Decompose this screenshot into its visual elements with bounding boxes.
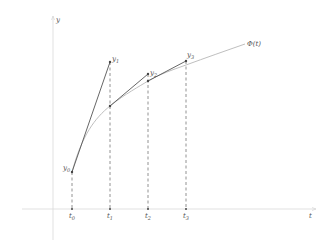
tick-dot-t3 xyxy=(185,208,187,210)
point-phi-t2 xyxy=(147,80,149,82)
axes: y t xyxy=(22,16,316,240)
tick-dot-t2 xyxy=(147,208,149,210)
euler-method-diagram: y t Φ(t) y0 y1 y2 y3 t0 t1 t2 t3 xyxy=(0,0,329,247)
point-y0 xyxy=(71,171,73,173)
euler-segments xyxy=(72,61,186,172)
y-axis-label: y xyxy=(55,16,61,24)
euler-step-2 xyxy=(110,74,148,106)
tick-label-t2: t2 xyxy=(145,212,151,221)
exact-solution-curve xyxy=(72,44,245,172)
point-phi-t1 xyxy=(109,105,111,107)
points xyxy=(71,60,187,210)
point-y2 xyxy=(147,73,149,75)
label-y1: y1 xyxy=(111,55,119,64)
tick-dot-t0 xyxy=(71,208,73,210)
curve-label: Φ(t) xyxy=(247,40,261,48)
dashed-guides xyxy=(72,61,186,209)
point-y1 xyxy=(109,61,111,63)
tick-dot-t1 xyxy=(109,208,111,210)
point-y3 xyxy=(185,60,187,62)
tick-label-t3: t3 xyxy=(183,212,189,221)
tick-label-t0: t0 xyxy=(69,212,76,221)
label-y2: y2 xyxy=(149,69,157,78)
tick-label-t1: t1 xyxy=(107,212,113,221)
euler-step-1 xyxy=(72,62,110,172)
x-axis-label: t xyxy=(309,212,312,220)
label-y3: y3 xyxy=(186,51,194,60)
label-y0: y0 xyxy=(62,164,71,173)
